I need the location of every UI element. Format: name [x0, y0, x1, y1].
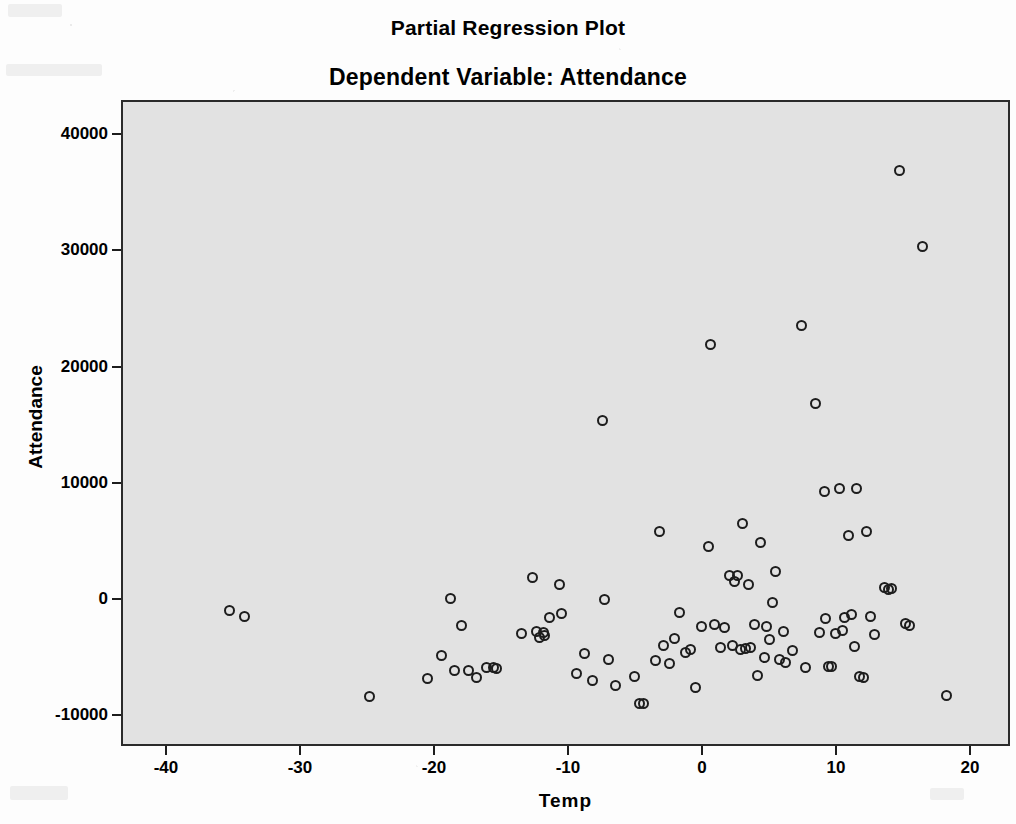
- x-axis-tick: [835, 746, 837, 755]
- y-axis-tick: [112, 366, 121, 368]
- scatter-point: [834, 483, 845, 494]
- y-axis-tick-label: 40000: [16, 124, 108, 144]
- scatter-point: [456, 620, 467, 631]
- x-axis-tick: [165, 746, 167, 755]
- scatter-point: [743, 579, 754, 590]
- x-axis-tick: [433, 746, 435, 755]
- scatter-point: [527, 572, 538, 583]
- x-axis-tick-label: 0: [672, 758, 732, 778]
- scatter-point: [846, 609, 857, 620]
- scatter-point: [436, 650, 447, 661]
- scatter-point: [941, 690, 952, 701]
- scatter-point: [422, 673, 433, 684]
- scatter-point: [904, 620, 915, 631]
- scatter-point: [861, 526, 872, 537]
- scatter-point: [579, 648, 590, 659]
- y-axis-tick: [112, 249, 121, 251]
- y-axis-tick-label: 30000: [16, 240, 108, 260]
- scatter-point: [539, 630, 550, 641]
- y-axis-tick-label: -10000: [16, 705, 108, 725]
- scatter-point: [826, 661, 837, 672]
- scatter-point: [837, 625, 848, 636]
- scatter-point: [239, 611, 250, 622]
- scatter-point: [705, 339, 716, 350]
- x-axis-tick-label: -10: [538, 758, 598, 778]
- scatter-point: [761, 621, 772, 632]
- x-axis-tick: [567, 746, 569, 755]
- scatter-point: [554, 579, 565, 590]
- scatter-point: [544, 612, 555, 623]
- x-axis-tick: [701, 746, 703, 755]
- scatter-point: [869, 629, 880, 640]
- scatter-point: [719, 622, 730, 633]
- scatter-point: [491, 663, 502, 674]
- scatter-point: [759, 652, 770, 663]
- scatter-point: [685, 644, 696, 655]
- scatter-point: [449, 665, 460, 676]
- scatter-point: [814, 627, 825, 638]
- scatter-point: [556, 608, 567, 619]
- scanned-figure-page: Partial Regression Plot Dependent Variab…: [0, 0, 1016, 824]
- y-axis-tick: [112, 714, 121, 716]
- scatter-point: [849, 641, 860, 652]
- plot-area: [121, 100, 1010, 746]
- scatter-point: [851, 483, 862, 494]
- scatter-point: [587, 675, 598, 686]
- scatter-point: [715, 642, 726, 653]
- y-axis-tick: [112, 133, 121, 135]
- scatter-point: [843, 530, 854, 541]
- scatter-point: [703, 541, 714, 552]
- chart-title: Partial Regression Plot: [0, 16, 1016, 40]
- scatter-point: [669, 633, 680, 644]
- scatter-point: [654, 526, 665, 537]
- x-axis-title: Temp: [121, 790, 1010, 812]
- scatter-point: [658, 640, 669, 651]
- scatter-point: [894, 165, 905, 176]
- scatter-point: [767, 597, 778, 608]
- scatter-point: [787, 645, 798, 656]
- scatter-point: [780, 657, 791, 668]
- scatter-point: [755, 537, 766, 548]
- scatter-point: [865, 611, 876, 622]
- x-axis-tick-label: 20: [940, 758, 1000, 778]
- chart-subtitle: Dependent Variable: Attendance: [0, 64, 1016, 91]
- scatter-point: [858, 672, 869, 683]
- scatter-point: [610, 680, 621, 691]
- scatter-point: [599, 594, 610, 605]
- x-axis-tick: [969, 746, 971, 755]
- scatter-point: [886, 583, 897, 594]
- scatter-point: [737, 518, 748, 529]
- y-axis-tick: [112, 598, 121, 600]
- scatter-point: [770, 566, 781, 577]
- scatter-point: [732, 570, 743, 581]
- scatter-point: [629, 671, 640, 682]
- scatter-point: [745, 642, 756, 653]
- y-axis-tick-label: 10000: [16, 473, 108, 493]
- x-axis-tick-label: -20: [404, 758, 464, 778]
- scatter-point: [516, 628, 527, 639]
- x-axis-tick: [299, 746, 301, 755]
- scatter-point: [690, 682, 701, 693]
- x-axis-tick-label: -30: [270, 758, 330, 778]
- scatter-point: [603, 654, 614, 665]
- scatter-point: [471, 672, 482, 683]
- scatter-point: [650, 655, 661, 666]
- scatter-point: [819, 486, 830, 497]
- scatter-point: [696, 621, 707, 632]
- scatter-point: [638, 698, 649, 709]
- scatter-point: [664, 658, 675, 669]
- scatter-point: [597, 415, 608, 426]
- scatter-point: [571, 668, 582, 679]
- scatter-point: [445, 593, 456, 604]
- scatter-point-layer: [123, 102, 1008, 744]
- scatter-point: [752, 670, 763, 681]
- scatter-point: [810, 398, 821, 409]
- scan-artifact-mark: [10, 786, 68, 800]
- x-axis-tick-label: -40: [136, 758, 196, 778]
- x-axis-tick-label: 10: [806, 758, 866, 778]
- scatter-point: [917, 241, 928, 252]
- scatter-point: [820, 613, 831, 624]
- scatter-point: [224, 605, 235, 616]
- y-axis-tick-label: 20000: [16, 357, 108, 377]
- y-axis-tick: [112, 482, 121, 484]
